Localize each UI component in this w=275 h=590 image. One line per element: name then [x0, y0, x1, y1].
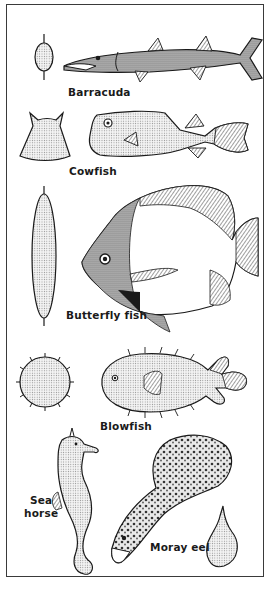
barracuda-illustration	[64, 36, 262, 82]
label-sea-horse: Sea horse	[24, 494, 58, 520]
moray-eel-cross-section	[207, 506, 237, 567]
cowfish-illustration	[89, 111, 248, 158]
label-cowfish: Cowfish	[69, 165, 117, 178]
blowfish-cross-section	[16, 353, 74, 411]
label-barracuda: Barracuda	[68, 86, 131, 99]
butterfly-fish-cross-section	[32, 186, 56, 326]
sea-horse-illustration	[52, 428, 98, 574]
label-blowfish: Blowfish	[100, 420, 152, 433]
barracuda-cross-section	[35, 34, 53, 80]
label-sea-horse-line-1: Sea	[24, 494, 58, 507]
label-sea-horse-line-2: horse	[24, 507, 58, 520]
cowfish-cross-section	[20, 113, 70, 161]
label-moray-eel: Moray eel	[150, 541, 210, 554]
blowfish-illustration	[102, 347, 247, 418]
label-butterfly-fish: Butterfly fish	[66, 309, 147, 322]
